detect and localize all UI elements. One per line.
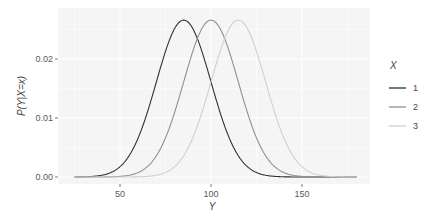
y-axis: 0.000.010.02 xyxy=(35,54,58,182)
x-tick-label: 150 xyxy=(294,189,309,199)
x-tick-label: 100 xyxy=(203,189,218,199)
density-chart: 0.000.010.02 50100150 Y P(Y|X=x) X 123 xyxy=(0,0,438,222)
y-axis-title: P(Y|X=x) xyxy=(16,76,27,116)
y-tick-label: 0.02 xyxy=(35,54,53,64)
legend-label-3: 3 xyxy=(413,121,418,131)
plot-panel xyxy=(58,8,370,184)
x-tick-label: 50 xyxy=(115,189,125,199)
x-axis: 50100150 xyxy=(115,184,310,199)
legend-title: X xyxy=(389,60,397,71)
legend-label-2: 2 xyxy=(413,102,418,112)
legend: X 123 xyxy=(389,60,418,131)
legend-label-1: 1 xyxy=(413,83,418,93)
y-tick-label: 0.01 xyxy=(35,113,53,123)
x-axis-title: Y xyxy=(209,201,217,212)
y-tick-label: 0.00 xyxy=(35,172,53,182)
